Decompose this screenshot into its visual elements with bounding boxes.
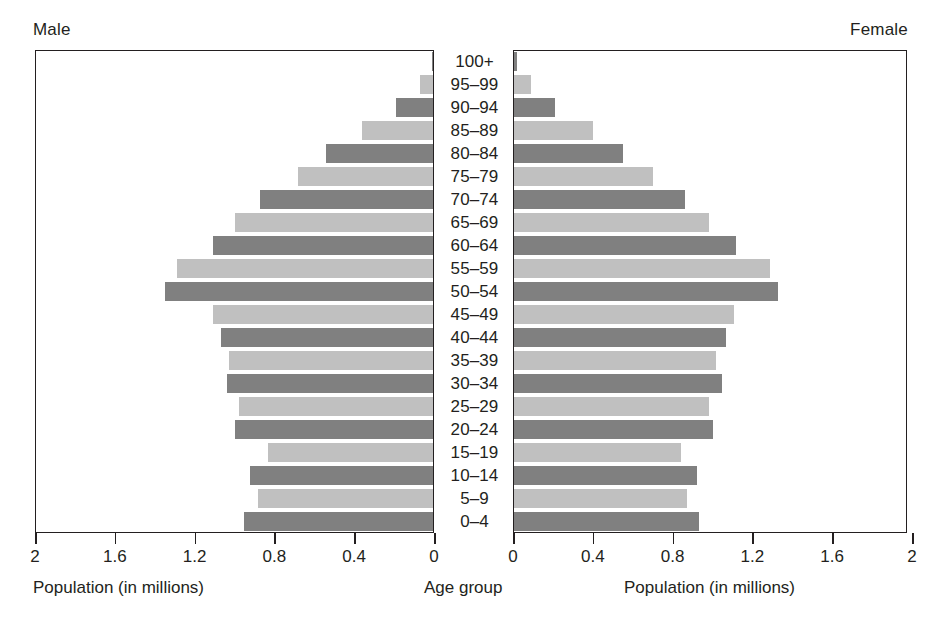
female-bar <box>513 374 722 392</box>
age-group-label: 45–49 <box>434 305 515 325</box>
age-group-label: 30–34 <box>434 374 515 394</box>
x-axis-tick <box>274 533 276 544</box>
age-group-label: 60–64 <box>434 236 515 256</box>
age-group-label: 70–74 <box>434 190 515 210</box>
axis-caption-left: Population (in millions) <box>33 578 204 598</box>
female-bar <box>513 305 734 323</box>
female-bar <box>513 144 623 162</box>
x-axis-tick-label: 1.6 <box>103 547 127 567</box>
x-axis-tick <box>593 533 595 544</box>
female-bar <box>513 489 687 507</box>
age-group-label: 10–14 <box>434 466 515 486</box>
male-bar <box>239 397 435 415</box>
male-bar <box>165 282 434 300</box>
age-group-label: 95–99 <box>434 75 515 95</box>
x-axis-tick-label: 1.2 <box>741 547 765 567</box>
female-bar <box>513 512 699 530</box>
female-bar <box>513 75 531 93</box>
age-group-label: 50–54 <box>434 282 515 302</box>
x-axis-tick <box>752 533 754 544</box>
age-group-label: 80–84 <box>434 144 515 164</box>
x-axis-tick <box>912 533 914 544</box>
age-group-label: 35–39 <box>434 351 515 371</box>
axis-caption-center: Age group <box>424 578 502 598</box>
age-group-column: 100+95–9990–9485–8980–8475–7970–7465–696… <box>433 50 514 533</box>
female-header-label: Female <box>850 20 908 40</box>
x-axis-tick <box>354 533 356 544</box>
male-bar <box>268 443 434 461</box>
x-axis-tick <box>673 533 675 544</box>
male-bar <box>244 512 434 530</box>
female-bar <box>513 190 685 208</box>
male-bar <box>235 213 435 231</box>
x-axis-tick-label: 1.6 <box>820 547 844 567</box>
female-bar <box>513 259 770 277</box>
age-group-label: 25–29 <box>434 397 515 417</box>
x-axis-tick-label: 0 <box>508 547 517 567</box>
age-group-label: 75–79 <box>434 167 515 187</box>
male-bar <box>298 167 434 185</box>
female-bar <box>513 420 713 438</box>
age-group-label: 85–89 <box>434 121 515 141</box>
female-bar <box>513 236 736 254</box>
x-axis-tick <box>434 533 436 544</box>
age-group-label: 15–19 <box>434 443 515 463</box>
female-bar <box>513 397 709 415</box>
x-axis-tick-label: 0.8 <box>263 547 287 567</box>
x-axis-tick <box>195 533 197 544</box>
male-bar <box>250 466 434 484</box>
age-group-label: 0–4 <box>434 512 515 532</box>
x-axis-tick <box>513 533 515 544</box>
female-bar <box>513 98 555 116</box>
female-bar <box>513 351 716 369</box>
age-group-label: 20–24 <box>434 420 515 440</box>
male-header-label: Male <box>33 20 71 40</box>
male-bar <box>177 259 434 277</box>
x-axis-tick <box>35 533 37 544</box>
x-axis-tick-label: 1.2 <box>183 547 207 567</box>
male-bar <box>213 305 434 323</box>
female-bar <box>513 466 697 484</box>
male-bar <box>235 420 435 438</box>
female-bar <box>513 328 726 346</box>
male-bar <box>229 351 434 369</box>
male-bar <box>396 98 434 116</box>
age-group-label: 5–9 <box>434 489 515 509</box>
male-bar <box>420 75 434 93</box>
female-bar <box>513 213 709 231</box>
x-axis-tick-label: 2 <box>30 547 39 567</box>
female-bar <box>513 282 778 300</box>
age-group-label: 40–44 <box>434 328 515 348</box>
x-axis-tick-label: 0.4 <box>581 547 605 567</box>
male-bar <box>362 121 434 139</box>
female-bar <box>513 167 653 185</box>
population-pyramid-chart: Male Female 100+95–9990–9485–8980–8475–7… <box>0 0 942 632</box>
x-axis-tick-label: 0.4 <box>342 547 366 567</box>
x-axis-tick <box>832 533 834 544</box>
male-bar <box>260 190 434 208</box>
x-axis-tick <box>115 533 117 544</box>
x-axis-tick-label: 0 <box>429 547 438 567</box>
age-group-label: 65–69 <box>434 213 515 233</box>
male-bar <box>227 374 434 392</box>
age-group-label: 100+ <box>434 52 515 72</box>
female-bar <box>513 121 593 139</box>
axis-caption-right: Population (in millions) <box>624 578 795 598</box>
male-bar <box>213 236 434 254</box>
x-axis-tick-label: 0.8 <box>661 547 685 567</box>
x-axis-tick-label: 2 <box>907 547 916 567</box>
age-group-label: 55–59 <box>434 259 515 279</box>
male-bar <box>221 328 434 346</box>
age-group-label: 90–94 <box>434 98 515 118</box>
female-bar <box>513 443 681 461</box>
male-bar <box>326 144 434 162</box>
male-bar <box>258 489 434 507</box>
